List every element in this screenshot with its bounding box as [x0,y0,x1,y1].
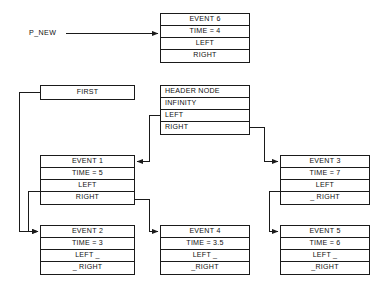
event-2-right: _ RIGHT [41,262,134,274]
event-4-left: LEFT _ [161,250,249,262]
event-3-right: _ RIGHT [281,192,369,204]
edge-first-to-event2 [19,93,40,232]
edge-event3-left-to-event5 [269,192,280,232]
event-6-node[interactable]: EVENT 6 TIME = 4 LEFT RIGHT [160,13,250,63]
header-node-left: LEFT [161,110,249,122]
event-5-time: TIME = 6 [281,238,369,250]
event-2-left: LEFT _ [41,250,134,262]
edge-header-right-to-event3 [250,128,278,162]
event-2-name: EVENT 2 [41,226,134,238]
event-1-left: LEFT [41,180,134,192]
event-5-name: EVENT 5 [281,226,369,238]
header-node[interactable]: HEADER NODE INFINITY LEFT RIGHT [160,85,250,135]
event-1-node[interactable]: EVENT 1 TIME = 5 LEFT RIGHT [40,155,135,205]
edge-header-left-to-event1 [137,116,160,162]
event-1-time: TIME = 5 [41,168,134,180]
event-3-node[interactable]: EVENT 3 TIME = 7 LEFT _ RIGHT [280,155,370,205]
event-5-right: _RIGHT [281,262,369,274]
event-2-time: TIME = 3 [41,238,134,250]
first-label: FIRST [41,86,134,99]
event-5-node[interactable]: EVENT 5 TIME = 6 LEFT _ _RIGHT [280,225,370,275]
event-3-name: EVENT 3 [281,156,369,168]
event-6-right: RIGHT [161,50,249,62]
event-4-right: _RIGHT [161,262,249,274]
event-6-left: LEFT [161,38,249,50]
event-4-time: TIME = 3.5 [161,238,249,250]
pointer-label-p-new: P_NEW [29,29,56,37]
event-5-left: LEFT _ [281,250,369,262]
diagram-canvas: P_NEW EVENT 6 TIME = 4 LEFT RIGHT FIRST … [0,0,390,291]
event-2-node[interactable]: EVENT 2 TIME = 3 LEFT _ _ RIGHT [40,225,135,275]
edge-event1-right-to-event4 [135,200,158,232]
event-1-right: RIGHT [41,192,134,204]
event-6-name: EVENT 6 [161,14,249,26]
event-4-name: EVENT 4 [161,226,249,238]
edge-event1-left-to-event2 [28,192,40,232]
header-node-right: RIGHT [161,122,249,134]
event-4-node[interactable]: EVENT 4 TIME = 3.5 LEFT _ _RIGHT [160,225,250,275]
first-node[interactable]: FIRST [40,85,135,100]
header-node-name: HEADER NODE [161,86,249,98]
event-1-name: EVENT 1 [41,156,134,168]
event-3-left: LEFT [281,180,369,192]
header-node-time: INFINITY [161,98,249,110]
event-3-time: TIME = 7 [281,168,369,180]
event-6-time: TIME = 4 [161,26,249,38]
